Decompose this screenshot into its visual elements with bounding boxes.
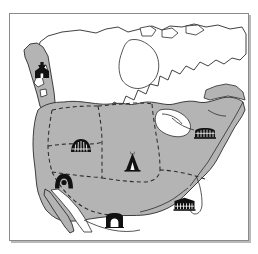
adobe-house-icon <box>105 212 124 228</box>
marker-village-house[interactable] <box>173 197 196 211</box>
marker-longhouse[interactable] <box>194 127 216 139</box>
village-house-icon <box>173 197 196 211</box>
marker-adobe-house[interactable] <box>105 212 124 228</box>
marker-hogan[interactable] <box>54 173 74 189</box>
teepee-icon <box>124 150 141 172</box>
longhouse-icon <box>194 127 216 139</box>
map-frame <box>9 13 249 241</box>
marker-teepee[interactable] <box>124 150 141 172</box>
plank-house-icon <box>33 62 51 79</box>
hogan-arch-icon <box>54 173 74 189</box>
marker-earth-lodge[interactable] <box>70 138 92 153</box>
earth-lodge-icon <box>70 138 92 153</box>
marker-northwest-coast[interactable] <box>33 62 51 79</box>
map-figure <box>0 0 258 254</box>
